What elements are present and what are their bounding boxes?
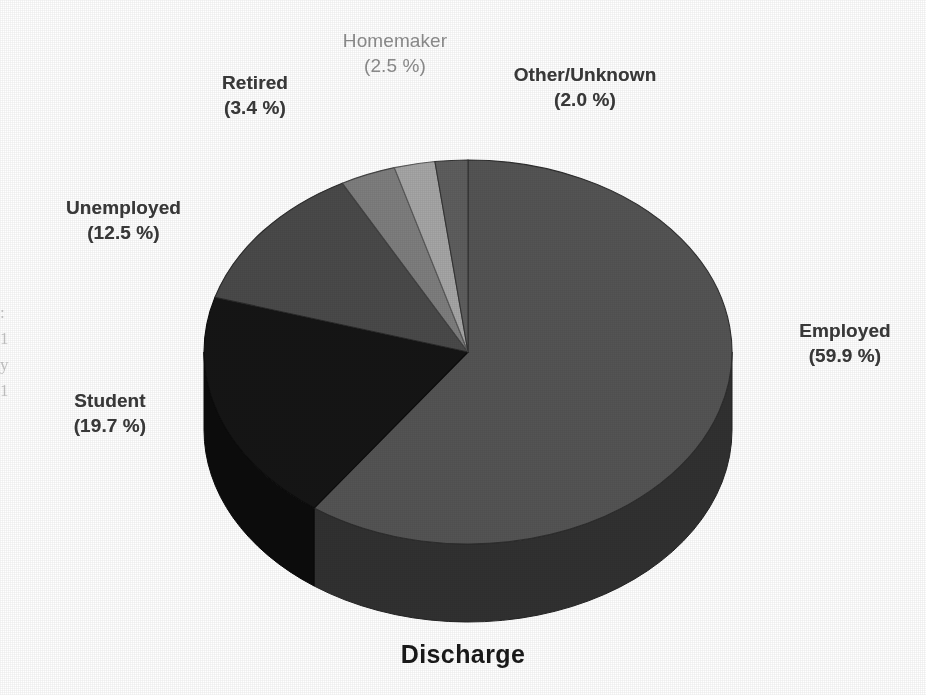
slice-label-other-unknown-name: Other/Unknown xyxy=(470,62,700,87)
slice-label-homemaker-pct: (2.5 %) xyxy=(315,53,475,78)
page-bleed-line-1: : xyxy=(0,300,26,326)
page-bleed-line-2: 1 xyxy=(0,326,26,352)
slice-label-retired: Retired (3.4 %) xyxy=(185,70,325,120)
slice-label-employed-pct: (59.9 %) xyxy=(760,343,926,368)
slice-label-unemployed-pct: (12.5 %) xyxy=(16,220,231,245)
pie-chart-figure: Retired (3.4 %) Homemaker (2.5 %) Other/… xyxy=(0,0,926,695)
slice-label-employed: Employed (59.9 %) xyxy=(760,318,926,368)
slice-label-homemaker: Homemaker (2.5 %) xyxy=(315,28,475,78)
page-bleed-artifact: : 1 y 1 xyxy=(0,300,26,440)
pie-top-faces xyxy=(204,160,732,544)
page-bleed-line-3: y xyxy=(0,352,26,378)
slice-label-other-unknown: Other/Unknown (2.0 %) xyxy=(470,62,700,112)
slice-label-student-name: Student xyxy=(20,388,200,413)
slice-label-homemaker-name: Homemaker xyxy=(315,28,475,53)
slice-label-employed-name: Employed xyxy=(760,318,926,343)
slice-label-student: Student (19.7 %) xyxy=(20,388,200,438)
slice-label-unemployed: Unemployed (12.5 %) xyxy=(16,195,231,245)
slice-label-retired-name: Retired xyxy=(185,70,325,95)
slice-label-student-pct: (19.7 %) xyxy=(20,413,200,438)
slice-label-other-unknown-pct: (2.0 %) xyxy=(470,87,700,112)
chart-title: Discharge xyxy=(0,640,926,669)
page-bleed-line-4: 1 xyxy=(0,378,26,404)
slice-label-unemployed-name: Unemployed xyxy=(16,195,231,220)
slice-label-retired-pct: (3.4 %) xyxy=(185,95,325,120)
